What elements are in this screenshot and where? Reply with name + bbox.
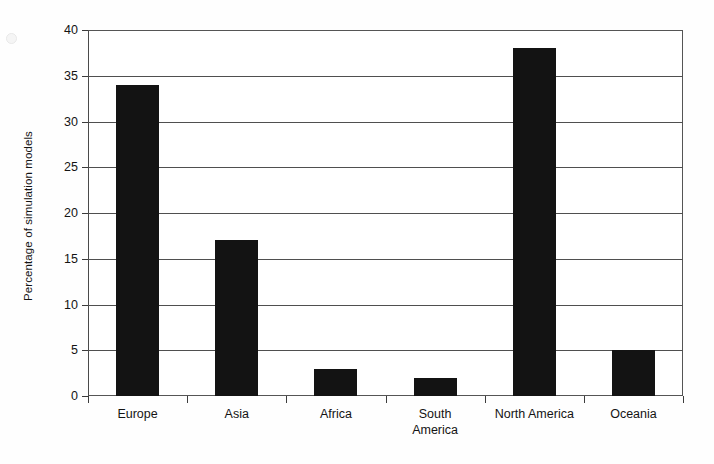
x-axis-tick-mark (485, 396, 486, 403)
x-axis-tick-mark (286, 396, 287, 403)
x-axis-category-label: South America (386, 406, 485, 438)
y-axis-tick-label: 0 (44, 390, 78, 403)
x-axis-tick-mark (187, 396, 188, 403)
bar[interactable] (612, 350, 655, 396)
x-axis-category-label: Europe (88, 406, 187, 438)
y-axis-tick-label: 25 (44, 161, 78, 174)
x-axis-labels: EuropeAsiaAfricaSouth AmericaNorth Ameri… (88, 406, 683, 438)
y-axis-tick-label: 30 (44, 115, 78, 128)
y-axis-tick-label: 15 (44, 253, 78, 266)
x-axis-tick-mark (386, 396, 387, 403)
x-axis-category-label: North America (485, 406, 584, 438)
bar-slot (386, 30, 485, 396)
bar-slot (88, 30, 187, 396)
bar-slot (286, 30, 385, 396)
x-axis-tick-mark (683, 396, 684, 403)
y-axis-tick-label: 20 (44, 207, 78, 220)
y-axis-tick-label: 40 (44, 24, 78, 37)
bar-chart: Percentage of simulation models 05101520… (0, 0, 714, 464)
y-axis-tick-label: 5 (44, 344, 78, 357)
plot-area: 0510152025303540 (88, 30, 683, 396)
bar-slot (584, 30, 683, 396)
y-axis-tick-label: 10 (44, 298, 78, 311)
x-axis-category-label: Africa (286, 406, 385, 438)
x-axis-category-label: Oceania (584, 406, 683, 438)
bars-layer (88, 30, 683, 396)
y-axis-title: Percentage of simulation models (22, 96, 40, 336)
x-axis-ticks (88, 396, 683, 404)
bar[interactable] (116, 85, 159, 396)
scan-artifact-speck (6, 33, 17, 44)
x-axis-tick-mark (584, 396, 585, 403)
x-axis-category-label: Asia (187, 406, 286, 438)
y-axis-tick-label: 35 (44, 70, 78, 83)
bar[interactable] (414, 378, 457, 396)
x-axis-tick-mark (88, 396, 89, 403)
bar-slot (485, 30, 584, 396)
bar[interactable] (215, 240, 258, 396)
bar-slot (187, 30, 286, 396)
bar[interactable] (314, 369, 357, 396)
bar[interactable] (513, 48, 556, 396)
